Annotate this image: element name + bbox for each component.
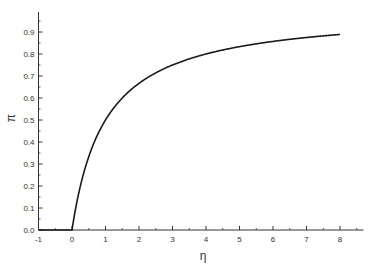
x-tick-label: 0 [70,235,75,244]
plot-area: -10123456780.00.10.20.30.40.50.60.70.80.… [23,12,363,244]
line-chart: -10123456780.00.10.20.30.40.50.60.70.80.… [0,0,379,275]
x-tick-label: 2 [137,235,142,244]
y-tick-label: 0.9 [23,28,35,37]
y-tick-label: 0.1 [23,204,35,213]
y-tick-label: 0.3 [23,160,35,169]
x-tick-label: 7 [304,235,309,244]
x-tick-label: 5 [237,235,242,244]
y-tick-label: 0.0 [23,226,35,235]
y-tick-label: 0.7 [23,72,35,81]
x-tick-label: -1 [35,235,43,244]
x-tick-label: 4 [204,235,209,244]
x-tick-label: 6 [271,235,276,244]
y-tick-label: 0.5 [23,116,35,125]
y-tick-label: 0.8 [23,50,35,59]
y-axis-label: π [4,114,18,122]
y-tick-label: 0.2 [23,182,35,191]
x-tick-label: 3 [170,235,175,244]
x-axis-label: η [200,249,207,263]
y-tick-label: 0.4 [23,138,35,147]
x-tick-label: 1 [103,235,108,244]
x-tick-label: 8 [338,235,343,244]
y-tick-label: 0.6 [23,94,35,103]
data-series-line [39,34,341,230]
